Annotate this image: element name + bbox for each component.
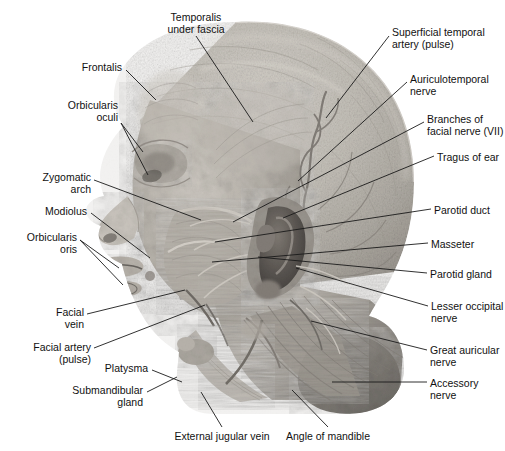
label-angle-of-mandible: Angle of mandible (286, 430, 370, 442)
label-platysma: Platysma (105, 362, 148, 374)
label-orbicularis-oculi: Orbicularis oculi (68, 99, 118, 124)
label-accessory-nerve: Accessory nerve (430, 377, 478, 402)
label-frontalis: Frontalis (82, 61, 122, 73)
label-zygomatic-arch: Zygomatic arch (43, 171, 91, 196)
label-tragus-of-ear: Tragus of ear (437, 151, 499, 163)
label-auriculotemporal-nerve: Auriculotemporal nerve (410, 73, 489, 98)
label-great-auricular-nerve: Great auricular nerve (430, 344, 499, 369)
label-superficial-temporal-artery-pulse: Superficial temporal artery (pulse) (392, 26, 485, 51)
label-submandibular-gland: Submandibular gland (72, 384, 143, 409)
anatomy-figure: Temporalis under fasciaFrontalisOrbicula… (0, 0, 505, 451)
label-temporalis-under-fascia: Temporalis under fascia (167, 11, 224, 36)
label-parotid-gland: Parotid gland (430, 268, 492, 280)
label-branches-of-facial-nerve: Branches of facial nerve (VII) (427, 113, 503, 138)
label-orbicularis-oris: Orbicularis oris (27, 231, 77, 256)
label-facial-artery-pulse: Facial artery (pulse) (33, 341, 91, 366)
label-lesser-occipital-nerve: Lesser occipital nerve (431, 300, 503, 325)
label-external-jugular-vein: External jugular vein (174, 430, 269, 442)
label-masseter: Masseter (431, 238, 474, 250)
label-facial-vein: Facial vein (56, 306, 84, 331)
label-modiolus: Modiolus (45, 205, 87, 217)
label-parotid-duct: Parotid duct (434, 204, 490, 216)
